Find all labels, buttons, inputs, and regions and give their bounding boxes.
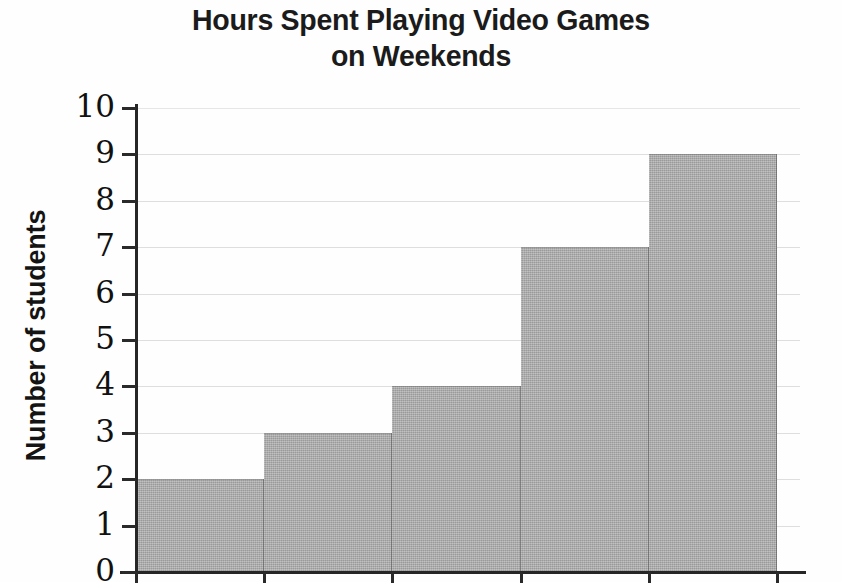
y-axis-tick <box>122 153 136 156</box>
bar <box>649 154 777 572</box>
bar-top-edge <box>136 479 264 480</box>
y-axis-tick-label: 4 <box>0 369 115 400</box>
bar <box>264 433 392 572</box>
x-axis-tick <box>391 572 394 583</box>
bar-top-edge <box>264 433 392 434</box>
x-axis-tick <box>648 572 651 583</box>
y-axis-tick <box>122 432 136 435</box>
bar <box>136 479 264 572</box>
bar <box>521 247 649 572</box>
y-axis-tick-label: 2 <box>0 462 115 493</box>
y-axis-tick <box>122 200 136 203</box>
x-axis-tick <box>263 572 266 583</box>
y-axis-tick-label: 1 <box>0 509 115 540</box>
y-axis-tick <box>122 385 136 388</box>
x-axis-line <box>120 571 806 574</box>
bar-top-edge <box>521 247 649 248</box>
plot-area <box>136 108 800 572</box>
x-axis-tick <box>135 572 138 583</box>
y-axis-tick <box>122 246 136 249</box>
x-axis-tick <box>776 572 779 583</box>
y-axis-tick-label: 7 <box>0 230 115 261</box>
y-axis-tick-label: 8 <box>0 184 115 215</box>
bar-series <box>136 108 800 572</box>
y-axis-tick-label: 10 <box>0 91 115 122</box>
bar <box>392 386 520 572</box>
y-axis-tick <box>122 478 136 481</box>
y-axis-tick <box>122 107 136 110</box>
y-axis-tick <box>122 525 136 528</box>
y-axis-tick <box>122 339 136 342</box>
y-axis-tick-label: 0 <box>0 555 115 586</box>
y-axis-tick <box>122 293 136 296</box>
y-axis-tick-label: 5 <box>0 323 115 354</box>
chart-title: Hours Spent Playing Video Games on Weeke… <box>21 2 821 74</box>
bar-top-edge <box>392 386 520 387</box>
y-axis-tick-label: 9 <box>0 137 115 168</box>
bar-top-edge <box>649 154 777 155</box>
y-axis-tick-label: 6 <box>0 277 115 308</box>
x-axis-tick <box>520 572 523 583</box>
y-axis-tick-label: 3 <box>0 416 115 447</box>
y-axis-tick <box>122 571 136 574</box>
